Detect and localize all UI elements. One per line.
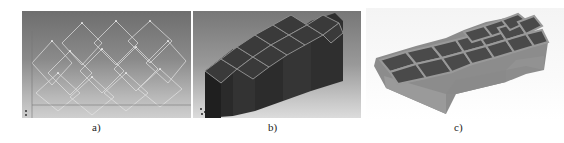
wireframe-drawing — [22, 11, 191, 118]
panel-a-wireframe — [22, 11, 191, 118]
axis-triad-icon — [25, 110, 27, 116]
panel-b-solid-render — [193, 11, 361, 118]
panel-c-printed-photo — [366, 8, 564, 120]
caption-b: b) — [268, 121, 277, 133]
caption-c: c) — [454, 121, 463, 133]
solid-render-drawing — [193, 11, 361, 118]
printed-part-drawing — [366, 8, 564, 120]
caption-a: a) — [92, 121, 101, 133]
